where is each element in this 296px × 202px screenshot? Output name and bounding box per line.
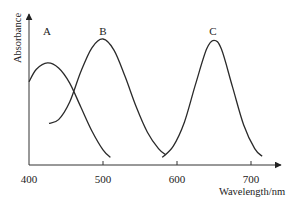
curve-c [162,40,262,157]
x-tick-label: 500 [95,173,112,185]
x-axis-ticks [103,161,251,165]
x-axis-title: Wavelength/nm [219,186,285,197]
absorbance-chart: 400 500 600 700 Wavelength/nm Absorbance… [0,0,296,202]
curve-b [49,39,166,155]
x-tick-label: 700 [243,173,260,185]
curve-label-c: C [209,25,216,37]
curve-a [29,63,110,158]
curve-label-a: A [43,25,51,37]
y-axis-title: Absorbance [12,13,23,63]
curve-label-b: B [99,25,106,37]
x-tick-label: 400 [21,173,38,185]
x-tick-label: 600 [169,173,186,185]
